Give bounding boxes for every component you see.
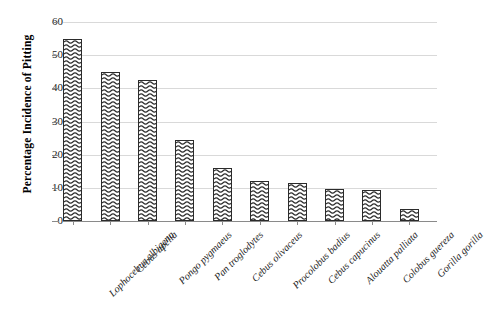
x-tick-mark: [110, 221, 111, 225]
x-axis-label: Cebus apella: [134, 229, 180, 275]
x-tick-mark: [297, 221, 298, 225]
x-axis-label: Pongo pygmaeus: [176, 229, 233, 286]
x-tick-mark: [335, 221, 336, 225]
x-tick-mark: [148, 221, 149, 225]
x-tick-mark: [73, 221, 74, 225]
x-tick-mark: [185, 221, 186, 225]
x-tick-mark: [222, 221, 223, 225]
x-tick-mark: [372, 221, 373, 225]
x-tick-mark: [409, 221, 410, 225]
x-tick-mark: [260, 221, 261, 225]
